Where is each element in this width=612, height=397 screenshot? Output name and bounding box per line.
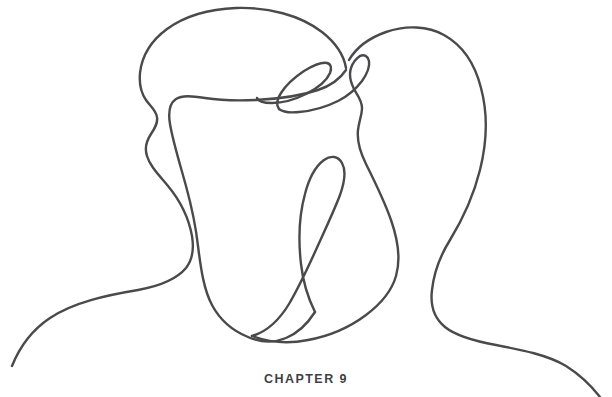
left-nose-detail-path	[257, 63, 331, 109]
chapter-page: CHAPTER 9	[0, 0, 612, 397]
left-head-outline-path	[12, 8, 346, 366]
center-loop-path	[252, 157, 344, 336]
chapter-caption: CHAPTER 9	[0, 371, 612, 387]
left-face-contour-path	[169, 70, 346, 342]
two-faces-one-line-drawing	[0, 0, 612, 397]
right-head-outline-path	[349, 27, 600, 397]
